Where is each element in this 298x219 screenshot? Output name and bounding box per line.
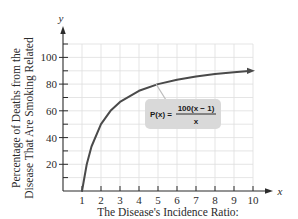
y-tick-label: 100: [41, 51, 58, 63]
y-tick-label: 20: [46, 158, 58, 170]
y-tick-label: 40: [46, 132, 58, 144]
x-tick-label: 6: [174, 194, 180, 206]
x-tick-label: 10: [248, 194, 260, 206]
x-tick-label: 7: [193, 194, 199, 206]
x-axis-title: The Disease's Incidence Ratio:: [97, 206, 239, 218]
x-tick-label: 3: [117, 194, 123, 206]
curve-arrow-icon: [247, 68, 255, 74]
x-tick-label: 2: [98, 194, 104, 206]
x-axis-var-label: x: [277, 185, 283, 197]
y-axis-arrow-icon: [60, 26, 65, 34]
y-axis-title-line2: Disease That Are Smoking Related: [23, 37, 36, 199]
x-axis-arrow-icon: [265, 188, 273, 193]
x-tick-label: 9: [231, 194, 237, 206]
x-tick-labels: 1 2 3 4 5 6 7 8 9 10: [79, 194, 259, 206]
y-axis-title-line1: Percentage of Deaths from the: [10, 48, 23, 188]
y-tick-labels: 100 80 60 40 20: [41, 51, 58, 170]
x-tick-label: 5: [155, 194, 161, 206]
formula-numerator: 100(x − 1): [178, 104, 215, 113]
formula-lhs: P(x) =: [150, 110, 172, 119]
x-ticks: [82, 186, 253, 191]
x-tick-label: 1: [79, 194, 85, 206]
formula-annotation: P(x) = 100(x − 1) x: [145, 99, 221, 129]
curve-p-of-x: [82, 71, 249, 191]
formula-denominator: x: [194, 117, 199, 126]
y-tick-label: 80: [46, 78, 58, 90]
y-axis-var-label: y: [58, 12, 64, 24]
y-tick-label: 60: [46, 105, 58, 117]
x-tick-label: 4: [136, 194, 142, 206]
chart: 100 80 60 40 20 1 2 3 4 5 6 7 8 9 10 y x…: [0, 0, 298, 219]
x-tick-label: 8: [212, 194, 218, 206]
